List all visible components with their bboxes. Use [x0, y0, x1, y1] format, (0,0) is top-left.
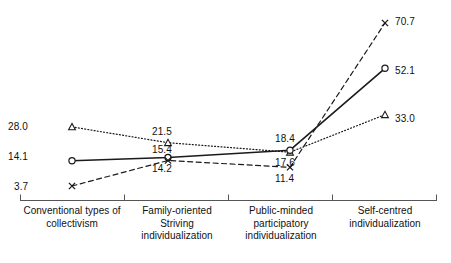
- series-line-dashed-cross-series: [72, 23, 385, 186]
- line-chart: 28.0 21.5 17.6 33.0 14.1 15.4 18.4 52.1 …: [0, 0, 451, 263]
- category-label-1-line1: Conventional types of: [14, 205, 130, 218]
- series-line-dotted-triangle-series: [72, 115, 385, 153]
- category-label-1: Conventional types of collectivism: [14, 205, 130, 230]
- marker-circle-c1: [69, 158, 75, 164]
- data-label-s1-c1: 28.0: [8, 121, 28, 132]
- category-label-3-line3: individualization: [226, 230, 336, 243]
- category-label-2-line1: Family-oriented: [122, 205, 232, 218]
- data-label-s2-c3: 18.4: [275, 133, 295, 144]
- marker-circle-c4: [382, 65, 388, 71]
- marker-cross-c4: [382, 20, 388, 26]
- marker-triangle-c4: [382, 111, 389, 117]
- data-label-s3-c4: 70.7: [395, 16, 415, 27]
- data-label-s2-c4: 52.1: [395, 65, 415, 76]
- category-label-2-line2: Striving: [122, 218, 232, 231]
- series-layer: [69, 20, 389, 189]
- category-label-3: Public-minded participatory individualiz…: [226, 205, 336, 243]
- marker-circle-c3: [287, 147, 293, 153]
- marker-triangle-c1: [69, 124, 76, 130]
- data-label-s3-c2: 14.2: [152, 163, 172, 174]
- category-label-4-line2: individualization: [330, 218, 440, 231]
- data-label-s2-c2: 15.4: [152, 144, 172, 155]
- data-label-s1-c3: 17.6: [275, 157, 295, 168]
- data-label-s3-c1: 3.7: [14, 181, 28, 192]
- data-label-s1-c2: 21.5: [152, 126, 172, 137]
- category-label-1-line2: collectivism: [14, 218, 130, 231]
- category-label-2-line3: individualization: [122, 230, 232, 243]
- category-label-3-line2: participatory: [226, 218, 336, 231]
- category-label-3-line1: Public-minded: [226, 205, 336, 218]
- data-label-s3-c3: 11.4: [275, 173, 294, 184]
- category-label-4-line1: Self-centred: [330, 205, 440, 218]
- category-label-2: Family-oriented Striving individualizati…: [122, 205, 232, 243]
- data-label-s2-c1: 14.1: [8, 151, 28, 162]
- category-label-4: Self-centred individualization: [330, 205, 440, 230]
- data-label-s1-c4: 33.0: [395, 113, 415, 124]
